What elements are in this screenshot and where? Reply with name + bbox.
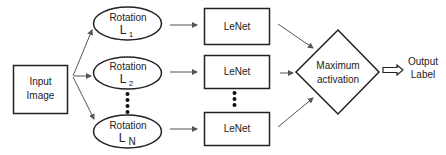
arrow-lenet-n-to-max (278, 98, 313, 127)
rotation-n-letter: L (119, 131, 126, 145)
output-label-node: Output Label (408, 56, 438, 80)
input-label-line1: Input (29, 76, 51, 87)
rotation-to-lenet-arrows (170, 25, 197, 129)
lenet-2-label: LeNet (224, 66, 251, 77)
input-fanout-arrows (73, 30, 94, 119)
lenet-node-2: LeNet (205, 56, 270, 89)
rotation-node-n: Rotation L N (94, 115, 162, 148)
rotation-lenet-diagram: Input Image Rotation L 1 Rotation L 2 Ro… (0, 0, 446, 155)
rotation-n-label: Rotation (109, 120, 146, 131)
output-label-line2: Label (411, 69, 435, 80)
rotation-2-letter: L (120, 72, 127, 86)
rotation-node-1: Rotation L 1 (94, 7, 162, 40)
rotation-ellipsis-dots (126, 92, 130, 114)
lenet-n-label: LeNet (224, 123, 251, 134)
rotation-2-label: Rotation (109, 61, 146, 72)
rotation-1-letter: L (120, 23, 127, 37)
input-label-line2: Image (27, 90, 55, 101)
rotation-2-subscript: 2 (129, 79, 134, 88)
aggregator-label-line2: activation (317, 74, 359, 85)
aggregator-label-line1: Maximum (316, 60, 359, 71)
output-label-line1: Output (408, 56, 438, 67)
arrow-input-to-rotation-n (73, 77, 94, 119)
lenet-node-n: LeNet (205, 113, 270, 146)
rotation-1-label: Rotation (109, 12, 146, 23)
lenet-node-1: LeNet (205, 9, 270, 45)
rotation-1-subscript: 1 (129, 30, 134, 39)
arrow-input-to-rotation-1 (73, 30, 92, 76)
rotation-node-2: Rotation L 2 (94, 57, 162, 89)
rotation-n-subscript: N (128, 136, 135, 147)
lenet-1-label: LeNet (224, 21, 251, 32)
double-arrow-to-output (383, 65, 403, 75)
arrow-lenet-1-to-max (278, 24, 313, 48)
input-image-node: Input Image (14, 66, 68, 114)
lenet-ellipsis-dots (233, 91, 237, 107)
